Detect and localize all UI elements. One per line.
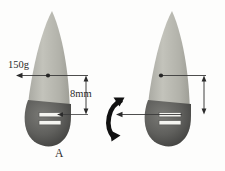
- panel-a-force-label: 150g: [8, 60, 29, 71]
- dental-implant-force-diagram: 150g 8mm A: [0, 0, 225, 171]
- vertical-double-arrow-icon: [202, 76, 207, 115]
- left-arrow-icon: [116, 112, 123, 117]
- panel-a: 150g 8mm A: [0, 0, 112, 171]
- load-point-dot-icon: [46, 73, 50, 77]
- load-point-dot-icon: [159, 73, 163, 77]
- panel-b: 150g 1200g 8mm B: [112, 0, 225, 171]
- panel-a-dimension-label: 8mm: [70, 89, 92, 100]
- panel-a-graphic: [0, 0, 112, 171]
- panel-a-caption: A: [55, 148, 63, 160]
- left-arrow-icon: [16, 73, 23, 78]
- panel-b-graphic: [112, 0, 225, 171]
